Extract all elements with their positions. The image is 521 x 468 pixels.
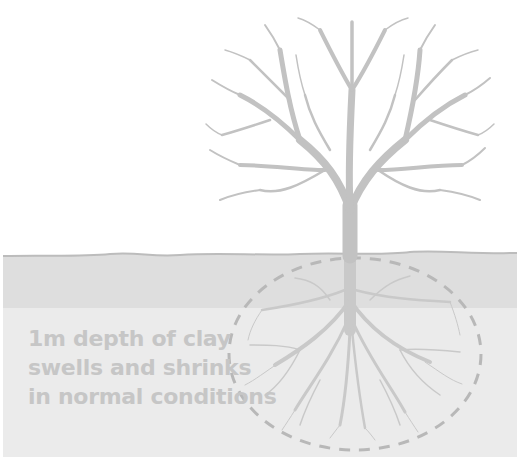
caption-line-3: in normal conditions	[28, 382, 277, 411]
clay-layer-band	[3, 251, 517, 308]
caption-line-2: swells and shrinks	[28, 353, 277, 382]
diagram-canvas: 1m depth of clay swells and shrinks in n…	[0, 0, 521, 468]
caption-line-1: 1m depth of clay	[28, 324, 277, 353]
tree-crown-with-bare-branches	[206, 18, 494, 256]
clay-depth-caption: 1m depth of clay swells and shrinks in n…	[28, 324, 277, 411]
